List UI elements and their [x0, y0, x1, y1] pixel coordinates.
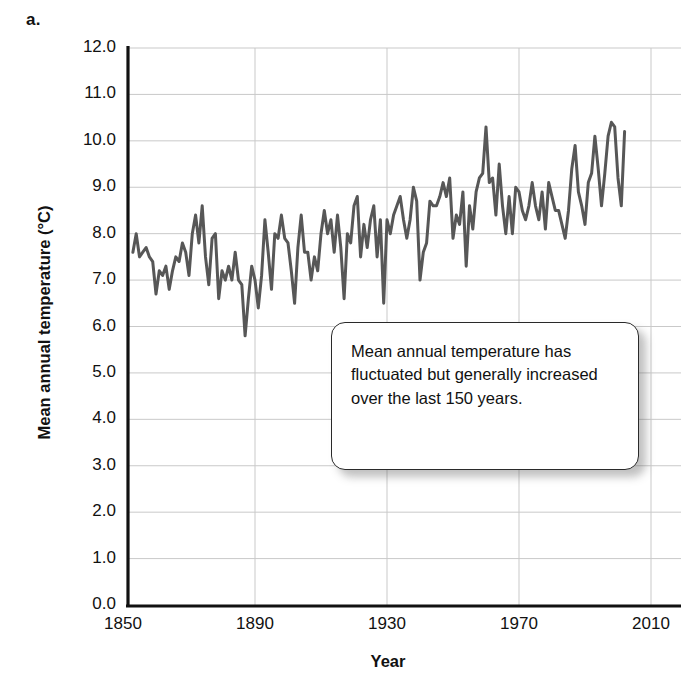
figure-panel-a: a. Mean annual temperature (°C) Year 0.0…	[0, 0, 697, 690]
y-tick-label: 8.0	[54, 223, 116, 243]
y-tick-label: 11.0	[54, 83, 116, 103]
y-tick-label: 7.0	[54, 269, 116, 289]
x-tick-label: 2010	[611, 614, 691, 634]
x-tick-label: 1890	[215, 614, 295, 634]
x-tick-label: 1930	[347, 614, 427, 634]
y-tick-label: 5.0	[54, 362, 116, 382]
y-tick-label: 4.0	[54, 408, 116, 428]
gridlines	[128, 48, 681, 559]
y-tick-label: 6.0	[54, 316, 116, 336]
y-tick-label: 10.0	[54, 130, 116, 150]
callout-text: Mean annual temperature has fluctuated b…	[351, 340, 622, 410]
x-tick-label: 1850	[83, 614, 163, 634]
callout-box: Mean annual temperature has fluctuated b…	[331, 322, 639, 470]
y-tick-label: 0.0	[54, 594, 116, 614]
y-tick-label: 12.0	[54, 37, 116, 57]
y-tick-label: 9.0	[54, 176, 116, 196]
y-tick-label: 1.0	[54, 548, 116, 568]
x-tick-label: 1970	[479, 614, 559, 634]
temperature-line	[133, 122, 625, 336]
y-tick-label: 3.0	[54, 455, 116, 475]
y-tick-label: 2.0	[54, 501, 116, 521]
